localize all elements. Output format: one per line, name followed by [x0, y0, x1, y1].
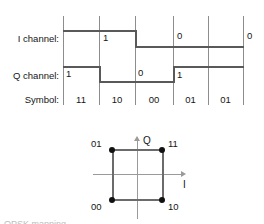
constellation-square-side — [112, 149, 162, 151]
qpsk-figure: I channel: Q channel: Symbol: 1 0 0 — [0, 0, 264, 224]
constellation-point-01 — [109, 147, 115, 153]
symbol-gridline — [243, 16, 244, 105]
symbol-cell: 11 — [63, 94, 99, 105]
q-waveform-segment — [173, 66, 244, 68]
i-channel-row-label: I channel: — [4, 33, 59, 44]
q-waveform-segment — [99, 81, 173, 83]
constellation-diagram: 01 11 00 10 Q I — [85, 130, 195, 222]
symbol-cell: 01 — [208, 94, 243, 105]
constellation-label-01: 01 — [91, 138, 102, 149]
q-value-label: 1 — [177, 70, 182, 80]
q-axis-line — [137, 141, 138, 219]
symbol-row-label: Symbol: — [4, 94, 59, 105]
symbol-gridline — [173, 16, 174, 105]
i-value-label: 0 — [177, 31, 182, 41]
q-axis-arrow-icon — [134, 136, 140, 141]
constellation-square-side — [112, 149, 114, 199]
q-value-label: 1 — [66, 69, 71, 79]
symbol-gridline — [208, 16, 209, 105]
q-waveform-edge — [173, 66, 175, 83]
constellation-label-00: 00 — [91, 201, 102, 212]
constellation-point-00 — [109, 197, 115, 203]
q-value-label: 0 — [138, 68, 143, 78]
i-waveform-segment — [63, 30, 135, 32]
constellation-point-10 — [159, 197, 165, 203]
i-axis-label: I — [183, 179, 186, 190]
constellation-label-10: 10 — [168, 201, 179, 212]
constellation-square-side — [112, 199, 162, 201]
i-value-label: 0 — [247, 31, 252, 41]
symbol-cell: 01 — [173, 94, 208, 105]
i-axis-arrow-icon — [181, 171, 186, 177]
constellation-label-11: 11 — [168, 138, 178, 149]
i-waveform-segment — [135, 46, 244, 48]
q-channel-row-label: Q channel: — [2, 70, 59, 81]
symbol-cell: 10 — [99, 94, 135, 105]
caption-fragment: QPSK mapping — [4, 219, 124, 224]
constellation-square-side — [162, 149, 164, 199]
symbol-cell: 00 — [135, 94, 173, 105]
constellation-point-11 — [159, 147, 165, 153]
q-axis-label: Q — [143, 135, 151, 146]
i-value-label: 1 — [103, 33, 108, 43]
